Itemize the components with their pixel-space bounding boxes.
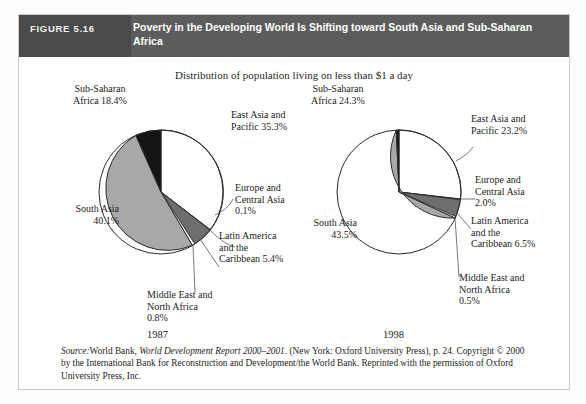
pie-chart-1987 [99, 130, 223, 254]
source-publisher: World Bank, [90, 346, 140, 356]
label-europe-central-asia-1998: Europe and Central Asia 2.0% [475, 174, 565, 209]
figure-number: FIGURE 5.16 [30, 23, 95, 34]
charts-area: Sub-Saharan Africa 18.4% East Asia and P… [19, 87, 569, 322]
figure-body: Distribution of population living on les… [19, 57, 569, 390]
page-background: FIGURE 5.16 Poverty in the Developing Wo… [0, 0, 586, 404]
slice-east-asia-pacific-1998 [399, 130, 461, 199]
label-sub-saharan-africa-1987: Sub-Saharan Africa 18.4% [47, 83, 153, 106]
leader-middle-east-1998 [455, 218, 459, 277]
year-label-1998: 1998 [383, 329, 404, 340]
label-south-asia-1998: South Asia 43.5% [271, 217, 357, 240]
leader-east-asia-1998 [456, 147, 473, 161]
year-label-1987: 1987 [147, 329, 168, 340]
source-label: Source: [61, 346, 90, 356]
chart-subtitle: Distribution of population living on les… [19, 69, 569, 81]
label-europe-central-asia-1987: Europe and Central Asia 0.1% [235, 182, 325, 217]
label-latin-america-caribbean-1998: Latin America and the Caribbean 6.5% [471, 215, 567, 250]
figure-number-cell: FIGURE 5.16 [19, 15, 131, 57]
source-note: Source:World Bank, World Development Rep… [61, 345, 535, 382]
figure-title-cell: Poverty in the Developing World Is Shift… [131, 15, 569, 57]
leader-latin-america-1998 [457, 213, 471, 229]
figure-title: Poverty in the Developing World Is Shift… [133, 21, 555, 48]
leader-latin-america-1987 [200, 239, 219, 267]
leader-middle-east-1987 [193, 245, 195, 292]
label-south-asia-1987: South Asia 40.1% [33, 203, 119, 226]
label-middle-east-north-africa-1987: Middle East and North Africa 0.8% [147, 289, 251, 324]
label-middle-east-north-africa-1998: Middle East and North Africa 0.5% [459, 272, 563, 307]
label-east-asia-pacific-1998: East Asia and Pacific 23.2% [471, 113, 571, 136]
source-report-title: World Development Report 2000–2001 [139, 346, 285, 356]
figure-box: FIGURE 5.16 Poverty in the Developing Wo… [18, 14, 570, 390]
label-east-asia-pacific-1987: East Asia and Pacific 35.3% [231, 109, 331, 132]
figure-header: FIGURE 5.16 Poverty in the Developing Wo… [19, 15, 569, 57]
label-sub-saharan-africa-1998: Sub-Saharan Africa 24.3% [285, 83, 391, 106]
